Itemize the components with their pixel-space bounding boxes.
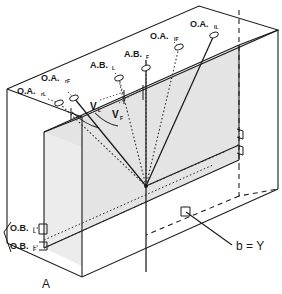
label-ob-upper-subscript: L xyxy=(33,228,36,234)
label-ob-upper: O.B. xyxy=(10,223,29,233)
leader-baseline xyxy=(186,212,232,245)
label-v-right: V xyxy=(112,109,119,120)
label-oa-far-right-subscript: lL xyxy=(214,24,218,30)
label-oa-left-subscript: rF xyxy=(65,78,70,84)
label-v-right-subscript: F xyxy=(120,115,123,121)
node-oa-rL xyxy=(54,99,64,107)
figure-canvas: O.A. rL O.A. rF A.B. L A.B. F O.A. lF O.… xyxy=(0,0,282,294)
label-ab-left-subscript: L xyxy=(112,65,115,71)
leader-ab-L xyxy=(115,73,118,76)
label-ob-lower-subscript: F xyxy=(33,246,36,252)
leader-oa-rL xyxy=(48,99,56,102)
node-oa-lF xyxy=(174,43,184,51)
label-ab-left: A.B. xyxy=(90,60,108,70)
label-oa-left: O.A. xyxy=(41,73,60,83)
label-oa-right-subscript: lF xyxy=(174,36,178,42)
label-ob-lower: O.B. xyxy=(10,241,29,251)
leader-oa-lF xyxy=(174,42,177,45)
label-v-left: V xyxy=(90,101,97,112)
hidden-edge-back-floor-left xyxy=(146,196,239,235)
label-corner-a: A xyxy=(42,277,50,291)
label-ab-right-subscript: F xyxy=(146,54,149,60)
label-oa-far-right: O.A. xyxy=(190,19,209,29)
node-oa-lL xyxy=(209,31,219,39)
node-oa-rF xyxy=(69,94,79,102)
isometric-diagram: O.A. rL O.A. rF A.B. L A.B. F O.A. lF O.… xyxy=(0,0,282,294)
label-baseline: b = Y xyxy=(236,239,264,253)
label-v-left-subscript: L xyxy=(98,107,101,113)
right-angle-floor-center xyxy=(181,207,190,216)
label-oa-far-left-subscript: rL xyxy=(41,91,46,97)
label-oa-right: O.A. xyxy=(150,31,169,41)
leader-oa-rF xyxy=(68,92,72,96)
label-ab-right: A.B. xyxy=(124,49,142,59)
label-oa-far-left: O.A. xyxy=(17,86,36,96)
inner-slab-right xyxy=(239,30,278,45)
node-convergence-point xyxy=(144,184,148,188)
node-ab-F xyxy=(141,64,151,72)
